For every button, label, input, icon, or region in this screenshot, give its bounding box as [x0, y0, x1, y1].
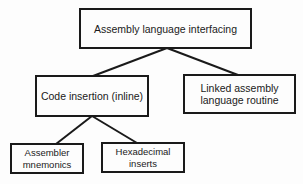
edge-code-hex: [92, 116, 137, 143]
node-linked-routine-label-2: language routine: [200, 94, 278, 106]
node-linked-routine-label-1: Linked assembly: [200, 82, 278, 94]
node-code-insertion-label: Code insertion (inline): [41, 90, 143, 102]
edge-code-assembler: [56, 116, 92, 144]
node-linked-routine: Linked assembly language routine: [183, 74, 296, 114]
edge-root-code-insertion: [93, 48, 167, 76]
node-assembler-mnemonics-label-2: mnemonics: [23, 159, 72, 171]
edge-root-linked-routine: [167, 48, 238, 75]
node-hex-inserts-label-2: inserts: [129, 158, 157, 170]
node-hex-inserts-label-1: Hexadecimal: [116, 146, 171, 158]
node-assembler-mnemonics-label-1: Assembler: [25, 147, 70, 159]
node-assembler-mnemonics: Assembler mnemonics: [10, 143, 84, 174]
node-hex-inserts: Hexadecimal inserts: [101, 142, 185, 173]
node-root-label: Assembly language interfacing: [94, 23, 237, 35]
node-code-insertion: Code insertion (inline): [35, 75, 149, 117]
node-root: Assembly language interfacing: [79, 8, 252, 49]
